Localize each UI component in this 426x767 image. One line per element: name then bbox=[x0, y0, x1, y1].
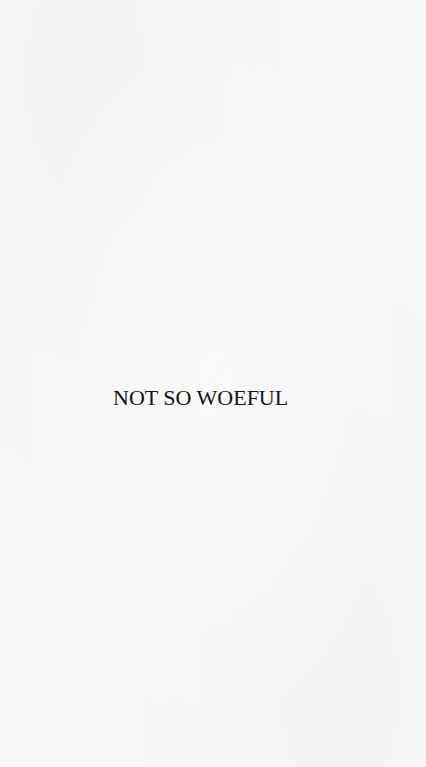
book-page: NOT SO WOEFUL bbox=[0, 0, 426, 767]
chapter-title: NOT SO WOEFUL bbox=[113, 385, 288, 411]
